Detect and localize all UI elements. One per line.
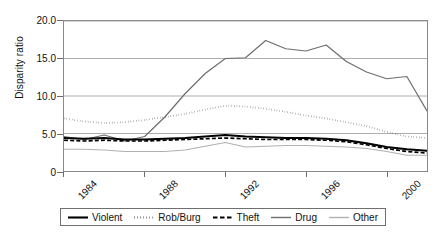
legend-swatch-icon: [134, 213, 154, 222]
legend-label: Rob/Burg: [158, 212, 200, 223]
x-tick-1996: 1996: [319, 178, 343, 202]
cropped-title-fragment: [118, 0, 438, 4]
legend-label: Other: [353, 212, 378, 223]
legend-label: Drug: [295, 212, 317, 223]
y-tickmark: [57, 134, 63, 135]
legend-item-violent[interactable]: Violent: [68, 212, 122, 223]
y-tickmark: [57, 58, 63, 59]
legend-label: Violent: [92, 212, 122, 223]
y-tick-20.0: 20.0: [12, 15, 56, 26]
y-tick-10.0: 10.0: [12, 91, 56, 102]
legend-swatch-icon: [68, 213, 88, 222]
x-tickmark: [387, 172, 388, 177]
x-tickmark: [63, 172, 64, 177]
y-tickmark: [57, 20, 63, 21]
x-tick-2000: 2000: [400, 178, 424, 202]
legend-label: Theft: [237, 212, 260, 223]
legend-swatch-icon: [271, 213, 291, 222]
x-tick-1984: 1984: [76, 178, 100, 202]
chart-figure: Disparity ratio 20.015.010.05.00 1984198…: [0, 0, 446, 233]
chart-canvas: [64, 21, 427, 171]
legend-swatch-icon: [213, 213, 233, 222]
legend-item-drug[interactable]: Drug: [271, 212, 317, 223]
x-tick-1988: 1988: [157, 178, 181, 202]
x-tickmark: [144, 172, 145, 177]
y-tick-5.0: 5.0: [12, 129, 56, 140]
legend-item-rob-burg[interactable]: Rob/Burg: [134, 212, 200, 223]
x-tickmark: [225, 172, 226, 177]
plot-area: [63, 20, 428, 172]
series-line-violent: [64, 135, 427, 151]
x-tick-1992: 1992: [238, 178, 262, 202]
y-tick-15.0: 15.0: [12, 53, 56, 64]
legend-item-theft[interactable]: Theft: [213, 212, 260, 223]
y-tickmark: [57, 96, 63, 97]
legend-item-other[interactable]: Other: [329, 212, 378, 223]
x-tickmark: [306, 172, 307, 177]
chart-legend: ViolentRob/BurgTheftDrugOther: [60, 208, 386, 226]
x-axis-tick-labels: 19841988199219962000: [0, 176, 446, 206]
legend-swatch-icon: [329, 213, 349, 222]
series-line-drug: [64, 41, 427, 142]
